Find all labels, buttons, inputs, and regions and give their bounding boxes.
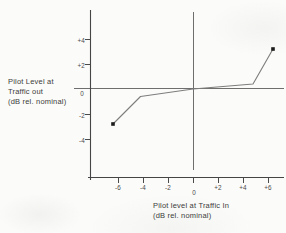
series-endpoint-marker — [111, 122, 115, 126]
x-tick-label-zero: 0 — [192, 189, 196, 196]
y-tick-label: +4 — [77, 37, 85, 44]
x-axis-title-line-1: Pilot level at Traffic In — [153, 201, 229, 211]
series-endpoint-marker — [271, 47, 275, 51]
x-axis-title-line-2: (dB rel. nominal) — [153, 211, 229, 221]
y-axis-title-line-3: (dB rel. nominal) — [8, 97, 66, 107]
x-axis-title: Pilot level at Traffic In (dB rel. nomin… — [153, 201, 229, 221]
x-tick-label: -2 — [165, 184, 171, 191]
x-tick-label: +6 — [264, 184, 272, 191]
y-tick-label: +2 — [77, 62, 85, 69]
x-tick-label: +4 — [239, 184, 247, 191]
y-axis-title-line-2: Traffic out — [8, 87, 66, 97]
chart-plot-area: +4+20-2-4-6-4-20+2+4+6 — [0, 0, 286, 233]
y-tick-label: -2 — [79, 112, 85, 119]
x-tick-label: -4 — [140, 184, 146, 191]
y-axis-title-line-1: Pilot Level at — [8, 77, 66, 87]
x-tick-label: -6 — [115, 184, 121, 191]
y-tick-label: -4 — [79, 137, 85, 144]
y-tick-label-zero: 0 — [80, 90, 84, 97]
x-tick-label: +2 — [214, 184, 222, 191]
pilot-level-chart-figure: +4+20-2-4-6-4-20+2+4+6 Pilot Level at Tr… — [0, 0, 286, 233]
y-axis-title: Pilot Level at Traffic out (dB rel. nomi… — [8, 77, 66, 107]
